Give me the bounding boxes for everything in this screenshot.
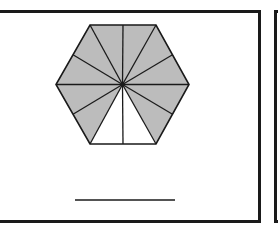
center-point xyxy=(120,82,124,86)
hexagon-diagram xyxy=(0,0,278,231)
spoke-line xyxy=(123,85,124,145)
spoke-line xyxy=(123,25,124,85)
